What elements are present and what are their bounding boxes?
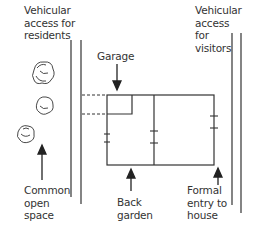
- tree-icon: [17, 126, 34, 143]
- tree-icon: [33, 62, 55, 84]
- arrow-icon: [38, 145, 46, 180]
- house-plan: [107, 95, 214, 165]
- label-back-garden: Back garden: [117, 196, 153, 221]
- label-visitor-access: Vehicular access for visitors: [195, 4, 242, 54]
- label-resident-access: Vehicular access for residents: [24, 4, 75, 42]
- arrow-icon: [127, 169, 135, 191]
- door-marks: [104, 116, 218, 143]
- arrow-icon: [113, 64, 121, 90]
- garage-driveway: [82, 95, 107, 114]
- tree-icon: [36, 97, 53, 114]
- arrow-icon: [214, 168, 222, 185]
- resident-road: [71, 40, 81, 204]
- visitor-road: [232, 33, 241, 213]
- label-formal-entry: Formal entry to house: [187, 184, 227, 222]
- label-garage: Garage: [97, 50, 134, 63]
- label-common-open-space: Common open space: [24, 184, 70, 222]
